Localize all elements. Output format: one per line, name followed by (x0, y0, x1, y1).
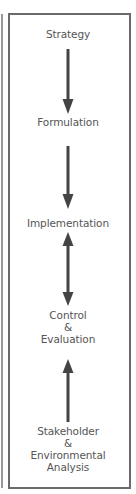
node-formulation-line-1: Formulation (0, 116, 136, 128)
node-control-evaluation-line-2: & (0, 321, 136, 333)
node-stakeholder-analysis: Stakeholder & Environmental Analysis (0, 425, 136, 473)
node-stakeholder-line-1: Stakeholder (0, 425, 136, 437)
arrow-formulation-to-implementation (0, 146, 136, 209)
up-arrow-icon (62, 359, 74, 422)
arrow-implementation-control (0, 232, 136, 306)
arrow-strategy-to-formulation (0, 49, 136, 114)
node-stakeholder-line-4: Analysis (0, 461, 136, 473)
node-formulation: Formulation (0, 116, 136, 128)
node-implementation-line-1: Implementation (0, 217, 136, 229)
down-arrow-icon (62, 146, 74, 209)
down-arrow-icon (62, 49, 74, 114)
node-implementation: Implementation (0, 217, 136, 229)
node-stakeholder-line-3: Environmental (0, 449, 136, 461)
node-control-evaluation-line-3: Evaluation (0, 333, 136, 345)
node-strategy-line-1: Strategy (0, 28, 136, 40)
node-stakeholder-line-2: & (0, 437, 136, 449)
bidirectional-arrow-icon (62, 232, 74, 306)
node-control-evaluation: Control & Evaluation (0, 309, 136, 345)
arrow-stakeholder-to-control (0, 359, 136, 422)
node-strategy: Strategy (0, 28, 136, 40)
node-control-evaluation-line-1: Control (0, 309, 136, 321)
